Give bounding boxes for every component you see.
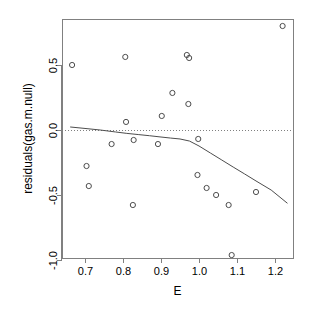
data-point <box>159 113 164 118</box>
smoother-path <box>71 127 288 203</box>
data-point <box>186 101 191 106</box>
y-axis: 0.50.0-0.5-1.0 <box>47 58 62 270</box>
x-tick-label: 1.2 <box>268 265 283 277</box>
data-point <box>170 90 175 95</box>
x-tick-label: 1.0 <box>192 265 207 277</box>
data-point <box>69 62 74 67</box>
data-point <box>204 185 209 190</box>
data-point <box>253 189 258 194</box>
x-axis: 0.70.80.91.01.11.2 <box>78 258 283 277</box>
lowess-smoother-curve <box>71 127 288 203</box>
data-point <box>229 252 234 257</box>
residual-plot: 0.70.80.91.01.11.2 0.50.0-0.5-1.0 E resi… <box>0 0 309 318</box>
data-point <box>130 202 135 207</box>
data-point <box>86 183 91 188</box>
x-tick-label: 1.1 <box>230 265 245 277</box>
y-tick-label: 0.0 <box>47 123 59 138</box>
data-point <box>84 163 89 168</box>
data-point <box>131 137 136 142</box>
plot-canvas: 0.70.80.91.01.11.2 0.50.0-0.5-1.0 E resi… <box>0 0 309 318</box>
x-tick-label: 0.7 <box>78 265 93 277</box>
y-tick-label: 0.5 <box>47 58 59 73</box>
data-point <box>109 141 114 146</box>
data-point <box>214 192 219 197</box>
data-point <box>123 54 128 59</box>
y-tick-label: -1.0 <box>47 251 59 270</box>
data-point <box>123 119 128 124</box>
x-tick-label: 0.8 <box>116 265 131 277</box>
data-point <box>155 141 160 146</box>
data-point <box>196 136 201 141</box>
data-point <box>226 202 231 207</box>
data-points <box>69 23 285 257</box>
data-point <box>280 23 285 28</box>
y-tick-label: -0.5 <box>47 186 59 205</box>
x-axis-title: E <box>173 284 181 298</box>
x-tick-label: 0.9 <box>154 265 169 277</box>
data-point <box>195 172 200 177</box>
y-axis-title: residuals(gas.m.null) <box>21 83 35 194</box>
